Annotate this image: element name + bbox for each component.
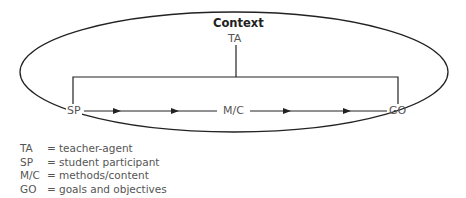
legend-meaning: methods/content <box>59 169 149 183</box>
legend: TA = teacher-agent SP = student particip… <box>20 142 167 196</box>
legend-abbr: M/C <box>20 169 47 183</box>
legend-meaning: student participant <box>59 156 160 170</box>
legend-abbr: SP <box>20 156 47 170</box>
node-sp: SP <box>66 105 82 116</box>
node-go: GO <box>388 105 407 116</box>
legend-equals: = <box>47 142 59 156</box>
node-mc: M/C <box>222 105 245 116</box>
legend-equals: = <box>47 183 59 197</box>
legend-equals: = <box>47 156 59 170</box>
context-title: Context <box>213 18 264 30</box>
legend-abbr: GO <box>20 183 47 197</box>
legend-row-go: GO = goals and objectives <box>20 183 167 197</box>
sp-go-bracket <box>73 77 398 104</box>
arrowhead-icon <box>343 108 351 114</box>
legend-row-ta: TA = teacher-agent <box>20 142 167 156</box>
legend-row-mc: M/C = methods/content <box>20 169 167 183</box>
arrowhead-icon <box>283 108 291 114</box>
legend-row-sp: SP = student participant <box>20 156 167 170</box>
legend-meaning: teacher-agent <box>59 142 133 156</box>
arrowhead-icon <box>171 108 179 114</box>
legend-equals: = <box>47 169 59 183</box>
legend-abbr: TA <box>20 142 47 156</box>
arrowhead-icon <box>113 108 121 114</box>
legend-meaning: goals and objectives <box>59 183 167 197</box>
node-ta: TA <box>227 33 242 44</box>
